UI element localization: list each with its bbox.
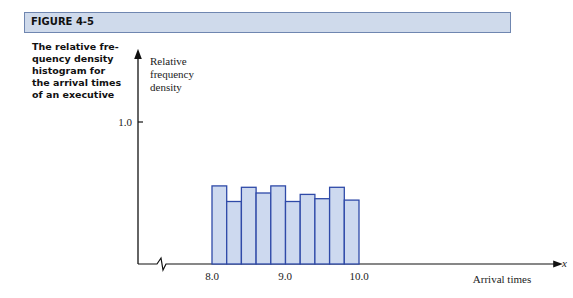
histogram-bar <box>344 200 359 264</box>
x-tick-label: 8.0 <box>205 270 219 282</box>
histogram-chart: 1.0 Relative frequency density x 8.0 9.0… <box>0 0 573 298</box>
histogram-bars <box>212 186 359 264</box>
x-axis-symbol: x <box>561 257 567 269</box>
y-tick-label: 1.0 <box>118 116 132 128</box>
y-axis-label-line3: density <box>150 81 182 93</box>
histogram-bar <box>227 202 242 265</box>
histogram-bar <box>315 199 330 264</box>
histogram-bar <box>271 186 286 264</box>
histogram-bar <box>241 187 256 264</box>
x-tick-label: 9.0 <box>278 270 292 282</box>
y-axis-label-line1: Relative <box>150 55 187 67</box>
histogram-bar <box>286 202 301 265</box>
histogram-bar <box>300 194 315 264</box>
histogram-bar <box>256 193 271 264</box>
histogram-bar <box>330 187 345 264</box>
y-axis-label-line2: frequency <box>150 68 194 80</box>
histogram-bar <box>212 186 227 264</box>
x-axis-label: Arrival times <box>473 273 531 285</box>
x-tick-label: 10.0 <box>349 270 369 282</box>
